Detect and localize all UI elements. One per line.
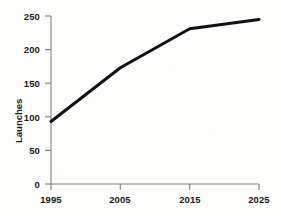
y-tick-label-0: 0 xyxy=(18,179,40,190)
y-tick-label-250: 250 xyxy=(14,11,40,22)
x-axis-ticks xyxy=(51,184,259,190)
y-tick-label-150: 150 xyxy=(14,78,40,89)
data-series-line xyxy=(51,19,259,121)
x-tick-label-1995: 1995 xyxy=(36,194,66,205)
x-tick-label-2025: 2025 xyxy=(244,194,274,205)
y-tick-label-200: 200 xyxy=(14,44,40,55)
line-chart-plot xyxy=(0,0,281,216)
chart-figure: 0 50 100 150 200 250 1995 2005 2015 2025… xyxy=(0,0,281,216)
y-tick-label-50: 50 xyxy=(18,145,40,156)
x-tick-label-2015: 2015 xyxy=(175,194,205,205)
y-axis-ticks xyxy=(45,16,51,184)
x-tick-label-2005: 2005 xyxy=(105,194,135,205)
y-axis-title: Launches xyxy=(13,99,24,143)
